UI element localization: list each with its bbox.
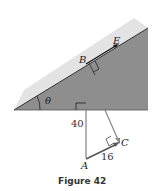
label-B: B [78, 54, 86, 65]
inclined-plane-diagram: B E θ 40 C A 16 Figure 42 [0, 0, 157, 191]
label-A: A [80, 160, 88, 171]
label-C: C [121, 137, 129, 148]
figure-caption: Figure 42 [58, 176, 106, 186]
label-E: E [112, 35, 121, 46]
label-theta: θ [45, 95, 51, 106]
right-angle-mark-C [106, 136, 114, 146]
label-40: 40 [71, 118, 84, 129]
normal-component-vector [105, 110, 119, 142]
label-16: 16 [101, 151, 114, 162]
